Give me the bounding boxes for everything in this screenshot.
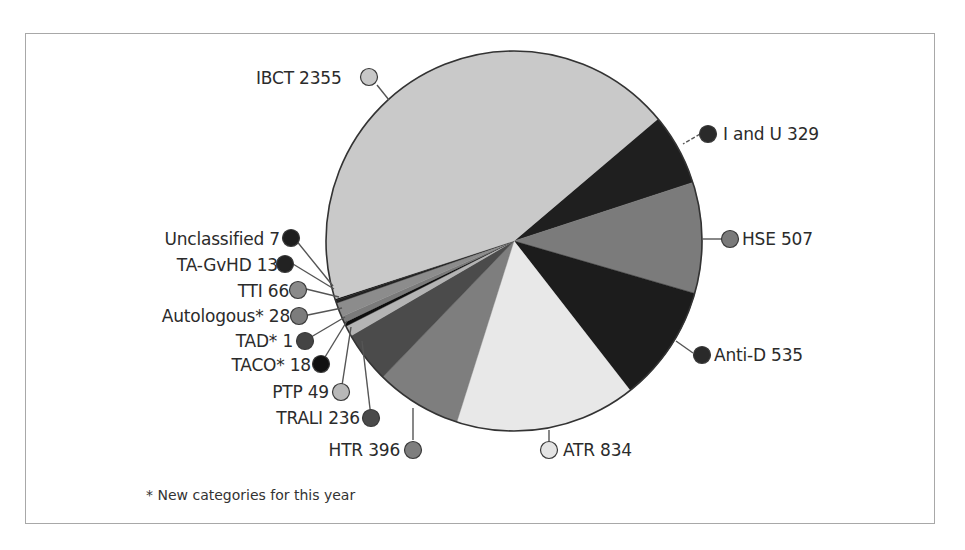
marker-ibct <box>361 69 378 86</box>
marker-tti <box>290 282 307 299</box>
marker-taco <box>313 356 330 373</box>
marker-anti-d <box>694 347 711 364</box>
pie-wedges <box>326 51 702 431</box>
label-ptp: PTP 49 <box>272 382 329 402</box>
label-hse: HSE 507 <box>742 229 813 249</box>
marker-htr <box>405 442 422 459</box>
label-taco: TACO* 18 <box>231 355 311 375</box>
marker-atr <box>541 442 558 459</box>
marker-ta-gvhd <box>277 256 294 273</box>
label-htr: HTR 396 <box>329 440 400 460</box>
marker-unclassified <box>283 230 300 247</box>
label-autologous: Autologous* 28 <box>162 306 290 326</box>
marker-i-and-u <box>700 126 717 143</box>
label-ta-gvhd: TA-GvHD 13 <box>177 255 278 275</box>
label-atr: ATR 834 <box>563 440 632 460</box>
label-tad: TAD* 1 <box>236 331 293 351</box>
label-i-and-u: I and U 329 <box>723 124 819 144</box>
label-ibct: IBCT 2355 <box>256 68 342 88</box>
marker-trali <box>363 410 380 427</box>
pie-chart <box>0 0 965 550</box>
label-anti-d: Anti-D 535 <box>714 345 803 365</box>
label-trali: TRALI 236 <box>276 408 360 428</box>
marker-autologous <box>291 308 308 325</box>
marker-tad <box>297 333 314 350</box>
footnote: * New categories for this year <box>146 487 355 503</box>
label-unclassified: Unclassified 7 <box>164 229 280 249</box>
marker-hse <box>722 231 739 248</box>
marker-ptp <box>333 384 350 401</box>
label-tti: TTI 66 <box>238 281 289 301</box>
